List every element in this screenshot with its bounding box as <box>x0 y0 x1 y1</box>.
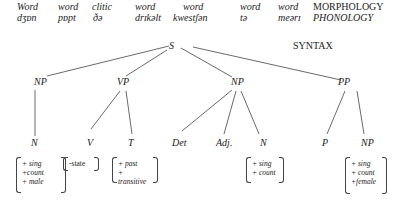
features-V: -state <box>63 157 99 171</box>
node-V: V <box>87 138 93 148</box>
node-NP-inner: NP <box>361 138 374 148</box>
feature-transitive: + transitive <box>118 168 152 186</box>
features-N-2: + sing + count <box>246 157 284 183</box>
feature-female: +female <box>351 177 381 186</box>
node-N-1: N <box>31 138 38 148</box>
phon-word-6: tə <box>240 13 247 23</box>
node-NP-object: NP <box>231 77 244 87</box>
morphology-label: MORPHOLOGY <box>313 2 384 12</box>
syntax-label: SYNTAX <box>293 41 333 51</box>
node-Det: Det <box>172 138 186 148</box>
node-VP: VP <box>117 77 129 87</box>
feature-count: +count <box>22 168 60 177</box>
node-Adj: Adj. <box>216 138 232 148</box>
morph-clitic: clitic <box>92 2 112 12</box>
phon-word-7: meərɪ <box>278 13 301 23</box>
morph-word-5: word <box>240 2 260 12</box>
linguistic-levels-diagram: Word word clitic word word word word MOR… <box>0 0 400 210</box>
morph-word-2: word <box>58 2 78 12</box>
feature-sing: + sing <box>351 159 381 168</box>
phonology-label: PHONOLOGY <box>313 13 373 23</box>
feature-count: + count <box>351 168 381 177</box>
morph-word-4: word <box>183 2 203 12</box>
phon-word-2: pɒpt <box>58 13 76 23</box>
feature-male: + male <box>22 177 60 186</box>
node-P: P <box>322 138 328 148</box>
feature-sing: + sing <box>252 159 278 168</box>
morph-word-6: word <box>278 2 298 12</box>
features-T: + past + transitive <box>112 157 158 183</box>
feature-past: + past <box>118 159 152 168</box>
node-T: T <box>128 138 134 148</box>
features-N-1: + sing +count + male <box>16 157 66 193</box>
node-S: S <box>169 41 174 51</box>
feature-state: -state <box>69 159 93 168</box>
feature-sing: + sing <box>22 159 60 168</box>
node-PP: PP <box>338 77 350 87</box>
features-NP: + sing + count +female <box>345 157 387 194</box>
node-NP-subject: NP <box>34 77 47 87</box>
feature-count: + count <box>252 168 278 177</box>
morph-word-1: Word <box>17 2 38 12</box>
node-N-2: N <box>260 138 267 148</box>
phon-word-1: dʒɒn <box>17 13 36 23</box>
phon-word-5: kwestʃən <box>173 13 208 23</box>
phon-word-4: drɪkəlt <box>135 13 161 23</box>
morph-word-3: word <box>135 2 155 12</box>
phon-word-3: ðə <box>93 13 102 23</box>
